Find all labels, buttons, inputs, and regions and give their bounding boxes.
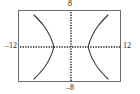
graph-canvas — [19, 11, 122, 83]
x-max-label: 12 — [123, 42, 140, 50]
curve-right-branch-lower — [88, 47, 108, 79]
curve-left-branch-upper — [34, 15, 54, 47]
plot-frame — [18, 10, 121, 82]
curve-right-branch-upper — [88, 15, 108, 47]
calculator-graph-screen: 8 –8 –12 12 — [0, 0, 140, 94]
x-min-label: –12 — [0, 42, 17, 50]
curve-left-branch-lower — [34, 47, 54, 79]
y-max-label: 8 — [0, 0, 140, 8]
y-min-label: –8 — [0, 84, 140, 92]
